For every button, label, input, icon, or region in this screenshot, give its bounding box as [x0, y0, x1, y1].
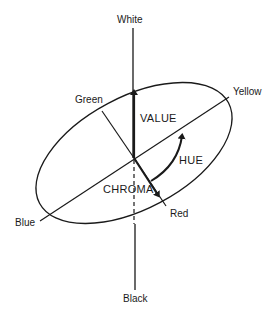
blue-label: Blue: [15, 218, 35, 228]
yellow-label: Yellow: [233, 87, 262, 97]
hue-label: HUE: [179, 155, 203, 165]
hue-arrow: [151, 136, 182, 181]
white-label: White: [117, 15, 143, 25]
chroma-label: CHROMA: [103, 184, 154, 194]
black-label: Black: [123, 294, 147, 304]
green-label: Green: [75, 95, 103, 105]
value-label: VALUE: [140, 113, 177, 123]
green-axis: [102, 111, 134, 158]
red-label: Red: [170, 209, 188, 219]
color-solid-diagram: [0, 0, 279, 317]
